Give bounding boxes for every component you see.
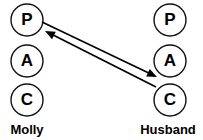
ego-letter-husband-child: C [164, 90, 176, 109]
ego-state-column-husband: P A C Husband [140, 4, 196, 137]
ego-state-husband-adult: A [154, 45, 186, 77]
ego-letter-molly-parent: P [21, 10, 32, 29]
ego-state-husband-child: C [154, 84, 186, 116]
ego-state-molly-child: C [11, 84, 43, 116]
ego-letter-husband-adult: A [164, 51, 176, 70]
transaction-arrow-husband-child-to-molly-parent [45, 31, 156, 87]
diagram-canvas: P A C Molly P A C [0, 0, 203, 140]
ego-state-column-molly: P A C Molly [10, 4, 44, 137]
ego-letter-husband-parent: P [164, 10, 175, 29]
ego-state-molly-adult: A [11, 45, 43, 77]
transaction-line-0 [42, 22, 150, 74]
person-label-molly: Molly [10, 122, 44, 137]
ego-state-molly-parent: P [11, 4, 43, 36]
transaction-line-1 [52, 35, 156, 87]
ego-state-husband-parent: P [154, 4, 186, 36]
ego-letter-molly-child: C [21, 90, 33, 109]
ego-letter-molly-adult: A [21, 51, 33, 70]
transaction-arrow-molly-parent-to-husband-child [42, 22, 157, 77]
transaction-arrows [42, 22, 157, 87]
transactional-analysis-diagram: P A C Molly P A C [0, 0, 203, 140]
person-label-husband: Husband [140, 122, 196, 137]
